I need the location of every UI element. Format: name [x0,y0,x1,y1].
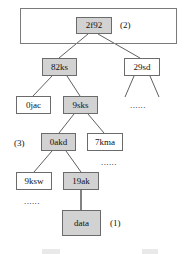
edge-9sks-7kma [88,114,104,133]
tree-node-9sks-label: 9sks [72,101,88,110]
ellipsis-under-9ksw: ...... [24,197,40,206]
edge-82ks-0jac [33,76,52,96]
edge-29sd-left-stub [125,76,134,97]
callout-tag-1: (1) [110,219,121,228]
tree-node-19ak-label: 19ak [72,177,90,186]
tree-node-root-label: 2f92 [86,21,103,30]
scan-artifact-left [42,249,60,254]
ellipsis-under-7kma: ...... [101,158,117,167]
tree-node-0jac-label: 0jac [26,101,41,110]
tree-node-7kma-label: 7kma [95,138,115,147]
ellipsis-under-9ksw-label: ...... [24,196,40,206]
tree-node-82ks[interactable]: 82ks [42,58,77,76]
tree-node-9sks[interactable]: 9sks [63,96,98,114]
edge-82ks-9sks [67,76,80,96]
tree-node-root[interactable]: 2f92 [76,17,112,34]
tree-node-0jac[interactable]: 0jac [16,96,51,114]
edge-0akd-9ksw [34,151,52,172]
callout-tag-3-label: (3) [14,138,25,148]
tree-node-29sd-label: 29sd [133,63,150,72]
tree-node-82ks-label: 82ks [51,63,68,72]
callout-tag-1-label: (1) [110,218,121,228]
tree-node-9ksw[interactable]: 9ksw [16,172,52,190]
tree-node-7kma[interactable]: 7kma [87,133,123,151]
callout-tag-3: (3) [14,139,25,148]
tree-node-29sd[interactable]: 29sd [124,58,160,76]
scan-artifact-right [142,249,158,254]
edge-29sd-right-stub [150,76,159,97]
tree-node-0akd-label: 0akd [50,138,68,147]
ellipsis-under-29sd: ...... [130,101,146,110]
tree-node-data[interactable]: data [62,210,101,236]
ellipsis-under-7kma-label: ...... [101,157,117,167]
callout-tag-2-label: (2) [120,20,131,30]
edge-0akd-19ak [66,151,81,172]
merkle-tree-figure: 2f92 82ks 29sd 0jac 9sks 0akd 7kma 9ksw … [0,0,190,254]
tree-node-9ksw-label: 9ksw [24,177,43,186]
edge-9sks-0akd [59,114,74,133]
tree-node-0akd[interactable]: 0akd [41,133,76,151]
callout-tag-2: (2) [120,21,131,30]
tree-node-data-label: data [74,219,89,228]
tree-node-19ak[interactable]: 19ak [63,172,99,190]
ellipsis-under-29sd-label: ...... [130,100,146,110]
